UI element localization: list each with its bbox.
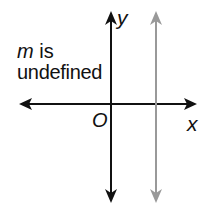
x-axis [19, 98, 197, 110]
coordinate-diagram: m is undefined y O x [0, 0, 201, 220]
slope-is-text: is [34, 40, 54, 62]
undefined-label: undefined [17, 62, 102, 82]
y-axis [105, 11, 117, 203]
x-axis-label: x [187, 113, 198, 134]
origin-label: O [92, 110, 108, 130]
slope-label: m is [17, 41, 54, 61]
y-axis-label: y [117, 7, 128, 28]
vertical-line [150, 11, 162, 203]
slope-variable: m [17, 40, 34, 62]
